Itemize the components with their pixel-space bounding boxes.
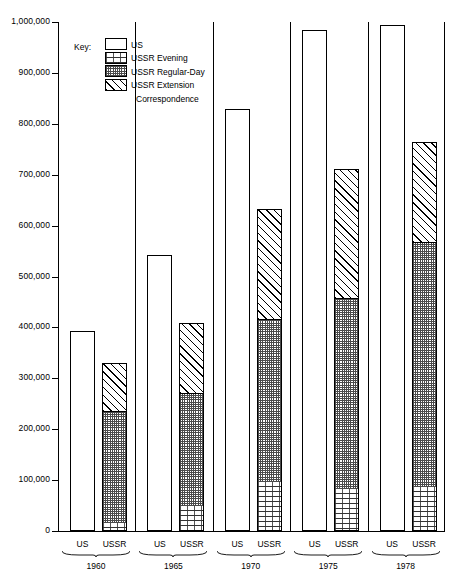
x-group-label-1975: 1975 [294,562,362,571]
y-axis-tick-label: 100,000 [0,475,50,485]
x-sub-label-ussr-1970: USSR [249,540,290,549]
legend-label-continuation: Correspondence [136,95,199,104]
group-separator [444,22,445,531]
y-axis-tick-label-text: 900,000 [2,68,50,77]
x-group-brace-1970 [217,551,285,557]
bar-us-1970 [225,109,250,531]
y-axis-tick-label-text: 500,000 [2,272,50,281]
group-separator [213,22,214,531]
bar-segment-ussr-extension-1965 [180,323,203,392]
y-axis-tick-label: 800,000 [0,119,50,129]
x-group-label-1970: 1970 [217,562,285,571]
x-sub-label-ussr-1978: USSR [404,540,445,549]
y-axis-tick-label: 0 [0,526,50,536]
y-axis-tick-label: 1,000,000 [0,17,50,27]
bar-segment-ussr-extension-1975 [335,169,358,299]
legend-label: USSR Evening [131,54,188,63]
x-group-brace-1975 [294,551,362,557]
legend-swatch-diagonal-icon [105,79,127,91]
bar-chart: 1,000,000900,000800,000700,000600,000500… [0,0,450,578]
bar-segment-ussr-regular-day-1960 [103,411,126,523]
x-group-label-1965: 1965 [139,562,207,571]
y-axis-tick-label-text: 0 [2,526,50,535]
bar-segment-ussr-extension-1970 [258,209,281,319]
bar-segment-ussr-evening-1960 [103,523,126,530]
y-axis-tick-label-text: 700,000 [2,170,50,179]
y-axis-tick-label: 600,000 [0,221,50,231]
y-axis-tick-label-text: 400,000 [2,322,50,331]
bar-segment-ussr-regular-day-1978 [413,242,436,486]
legend-label: USSR Regular-Day [131,68,205,77]
x-axis-baseline [58,531,445,532]
legend-swatch-checker-icon [105,65,127,77]
legend-swatch-brick-icon [105,52,127,64]
y-axis-tick-label-text: 300,000 [2,373,50,382]
x-group-brace-1960 [62,551,130,557]
bar-segment-ussr-evening-1965 [180,506,203,530]
y-axis-tick-label: 900,000 [0,68,50,78]
y-axis-tick-label-text: 800,000 [2,119,50,128]
y-axis-tick-label: 200,000 [0,424,50,434]
legend-label: US [131,41,143,50]
bar-segment-ussr-extension-1960 [103,363,126,411]
x-sub-label-ussr-1960: USSR [94,540,135,549]
group-separator [290,22,291,531]
y-axis-tick-label: 700,000 [0,170,50,180]
bar-ussr-1975 [334,169,359,531]
bar-us-1975 [302,30,327,531]
bar-segment-ussr-evening-1975 [335,489,358,530]
x-group-label-1978: 1978 [372,562,440,571]
x-sub-label-ussr-1975: USSR [326,540,367,549]
bar-us-1960 [70,331,95,531]
bar-ussr-1978 [412,142,437,531]
bar-ussr-1965 [179,323,204,531]
group-separator [368,22,369,531]
y-axis-tick-label: 400,000 [0,322,50,332]
bar-ussr-1970 [257,209,282,531]
x-group-brace-1965 [139,551,207,557]
legend-label: USSR Extension [131,81,194,90]
x-group-label-1960: 1960 [62,562,130,571]
legend-swatch-blank-icon [105,38,127,50]
y-axis-tick-label-text: 100,000 [2,475,50,484]
plot-area [58,22,445,531]
bar-segment-ussr-extension-1978 [413,142,436,243]
bar-segment-ussr-regular-day-1965 [180,393,203,506]
y-axis-tick-label: 300,000 [0,373,50,383]
y-axis-tick-label: 500,000 [0,272,50,282]
bar-segment-ussr-regular-day-1970 [258,319,281,482]
y-axis-tick-label-text: 600,000 [2,221,50,230]
x-group-brace-1978 [372,551,440,557]
x-sub-label-ussr-1965: USSR [171,540,212,549]
bar-segment-ussr-evening-1970 [258,482,281,530]
y-axis-tick-label-text: 200,000 [2,424,50,433]
bar-segment-ussr-evening-1978 [413,487,436,530]
bar-us-1965 [147,255,172,531]
bar-segment-ussr-regular-day-1975 [335,298,358,489]
y-axis-tick-label-text: 1,000,000 [2,17,50,26]
bar-us-1978 [380,25,405,531]
legend-title: Key: [74,43,91,52]
bar-ussr-1960 [102,363,127,531]
